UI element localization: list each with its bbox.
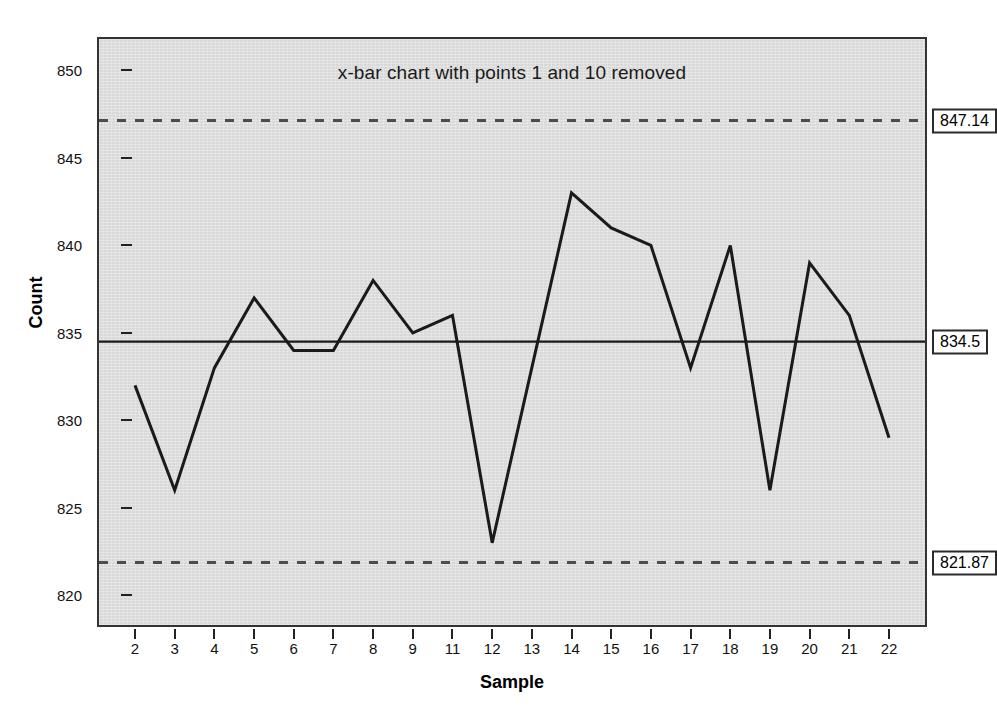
y-tick-mark — [121, 419, 132, 421]
x-tick-mark — [848, 629, 850, 639]
x-tick-mark — [174, 629, 176, 639]
x-tick-label: 14 — [552, 640, 592, 657]
x-axis-title: Sample — [97, 672, 927, 693]
y-tick-label: 845 — [36, 149, 82, 166]
chart-title: x-bar chart with points 1 and 10 removed — [97, 62, 927, 84]
x-tick-label: 19 — [750, 640, 790, 657]
y-tick-mark — [121, 332, 132, 334]
x-tick-mark — [888, 629, 890, 639]
x-tick-mark — [650, 629, 652, 639]
x-tick-label: 11 — [432, 640, 472, 657]
x-tick-label: 21 — [829, 640, 869, 657]
x-tick-mark — [809, 629, 811, 639]
x-tick-mark — [332, 629, 334, 639]
y-tick-mark — [121, 157, 132, 159]
x-tick-label: 20 — [790, 640, 830, 657]
x-tick-label: 9 — [393, 640, 433, 657]
x-tick-mark — [451, 629, 453, 639]
y-tick-mark — [121, 594, 132, 596]
x-tick-label: 13 — [512, 640, 552, 657]
x-tick-mark — [253, 629, 255, 639]
y-tick-mark — [121, 507, 132, 509]
x-tick-mark — [213, 629, 215, 639]
x-tick-label: 5 — [234, 640, 274, 657]
y-axis-ticks: 820825830835840845850 — [36, 0, 82, 715]
x-tick-label: 7 — [313, 640, 353, 657]
x-tick-label: 12 — [472, 640, 512, 657]
x-tick-mark — [372, 629, 374, 639]
x-tick-mark — [531, 629, 533, 639]
series-line-count — [135, 193, 889, 543]
x-tick-mark — [571, 629, 573, 639]
x-tick-label: 22 — [869, 640, 909, 657]
x-tick-mark — [690, 629, 692, 639]
x-tick-label: 17 — [671, 640, 711, 657]
ucl-value-box: 847.14 — [932, 108, 997, 133]
x-tick-label: 16 — [631, 640, 671, 657]
x-tick-label: 3 — [155, 640, 195, 657]
x-tick-label: 4 — [194, 640, 234, 657]
x-tick-mark — [610, 629, 612, 639]
y-tick-label: 825 — [36, 499, 82, 516]
x-tick-mark — [134, 629, 136, 639]
plot-area — [97, 37, 927, 627]
lcl-value-box: 821.87 — [932, 550, 997, 575]
y-tick-mark — [121, 244, 132, 246]
y-tick-mark — [121, 69, 132, 71]
y-tick-label: 835 — [36, 324, 82, 341]
x-tick-label: 18 — [710, 640, 750, 657]
center-line-value-box: 834.5 — [932, 329, 988, 354]
x-tick-label: 6 — [274, 640, 314, 657]
y-tick-label: 820 — [36, 587, 82, 604]
x-tick-label: 8 — [353, 640, 393, 657]
x-tick-mark — [412, 629, 414, 639]
y-tick-label: 830 — [36, 412, 82, 429]
chart-title-container: x-bar chart with points 1 and 10 removed — [97, 62, 927, 88]
x-tick-mark — [769, 629, 771, 639]
x-tick-mark — [491, 629, 493, 639]
x-tick-label: 2 — [115, 640, 155, 657]
x-tick-mark — [293, 629, 295, 639]
y-tick-label: 850 — [36, 62, 82, 79]
x-tick-mark — [729, 629, 731, 639]
x-tick-label: 15 — [591, 640, 631, 657]
y-tick-label: 840 — [36, 237, 82, 254]
series-canvas — [99, 39, 925, 625]
